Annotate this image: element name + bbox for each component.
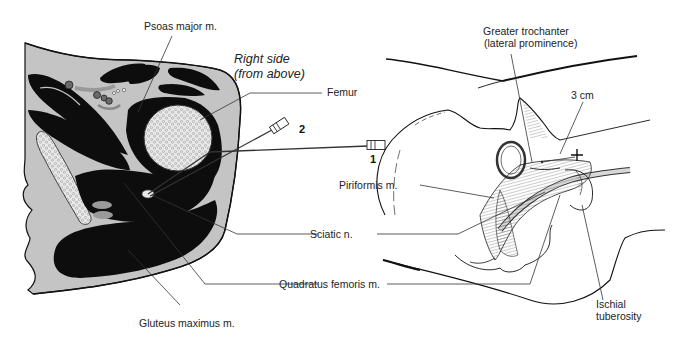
label-ischial-1: Ischial [596, 298, 626, 310]
caption-line-1: Right side [234, 52, 290, 66]
label-psoas-major: Psoas major m. [144, 20, 217, 32]
label-gluteus-maximus: Gluteus maximus m. [139, 317, 235, 329]
label-3cm: 3 cm [571, 89, 594, 101]
needle-1-label: 1 [370, 153, 376, 165]
anatomy-figure: 2 1 Psoas major m. Right side (from abov… [0, 0, 681, 337]
label-femur: Femur [327, 86, 358, 98]
label-sciatic-nerve: Sciatic n. [310, 228, 353, 240]
label-greater-trochanter-1: Greater trochanter [483, 25, 569, 37]
caption-line-2: (from above) [234, 67, 305, 81]
posterior-hip-diagram: Greater trochanter (lateral prominence) … [339, 25, 665, 322]
label-quadratus-femoris: Quadratus femoris m. [279, 278, 380, 290]
cross-section-diagram: 2 1 Psoas major m. Right side (from abov… [23, 20, 385, 329]
label-piriformis: Piriformis m. [339, 179, 397, 191]
label-ischial-2: tuberosity [596, 310, 642, 322]
needle-2-label: 2 [299, 123, 305, 135]
femur-head [144, 105, 212, 171]
label-greater-trochanter-2: (lateral prominence) [484, 37, 577, 49]
entry-plus-marker [571, 149, 583, 161]
